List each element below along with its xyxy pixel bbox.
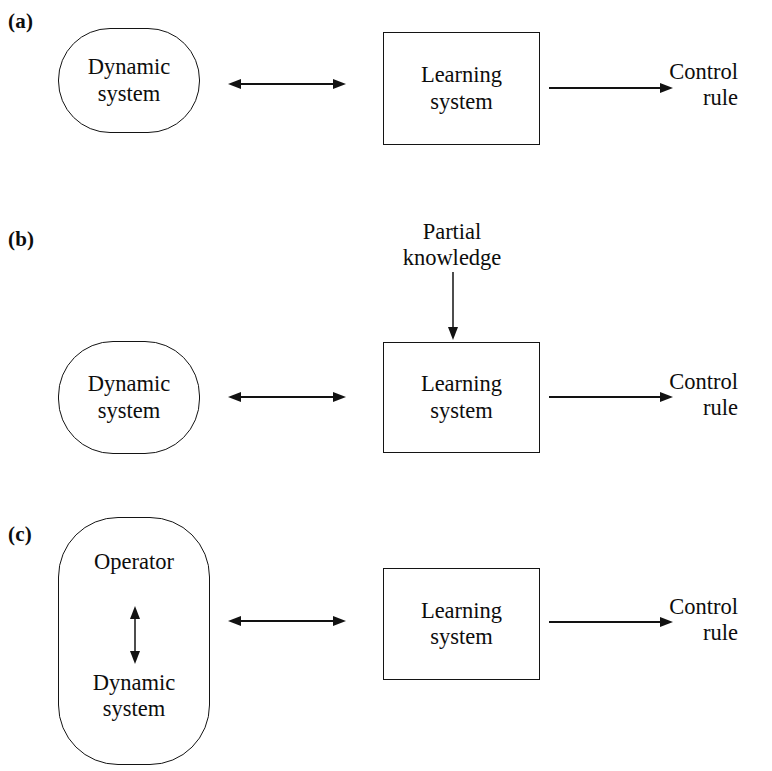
learning-system-label-c-line2: system [430, 624, 493, 650]
bidirectional-arrow-a [228, 73, 346, 95]
operator-plant-vertical-arrow-c [124, 606, 146, 664]
dynamic-system-label-c: Dynamic system [59, 670, 209, 722]
learning-system-node-a: Learning system [383, 32, 540, 145]
control-rule-label-b-line2: rule [598, 395, 738, 421]
dynamic-system-label-b-line2: system [98, 398, 161, 424]
panel-label-a: (a) [8, 11, 33, 32]
control-rule-label-c-line2: rule [598, 620, 738, 646]
bidirectional-arrow-b [228, 386, 346, 408]
dynamic-system-node-b: Dynamic system [58, 341, 200, 454]
dynamic-system-label-b-line1: Dynamic [88, 371, 170, 397]
figure-canvas: (a) Dynamic system Learning system Contr… [0, 0, 772, 771]
operator-label-c: Operator [59, 549, 209, 575]
control-rule-label-a-line2: rule [598, 85, 738, 111]
panel-label-c: (c) [8, 524, 32, 545]
partial-knowledge-label-b-line1: Partial [372, 219, 532, 245]
control-rule-output-a: Control rule [598, 59, 738, 111]
operator-label-c-line1: Operator [59, 549, 209, 575]
panel-label-b: (b) [8, 229, 34, 250]
control-rule-output-c: Control rule [598, 594, 738, 646]
dynamic-system-label-c-line2: system [59, 696, 209, 722]
control-rule-output-b: Control rule [598, 369, 738, 421]
control-rule-label-a-line1: Control [598, 59, 738, 85]
dynamic-system-label-a-line2: system [98, 81, 161, 107]
learning-system-label-a-line2: system [430, 89, 493, 115]
dynamic-system-label-c-line1: Dynamic [59, 670, 209, 696]
control-rule-label-b-line1: Control [598, 369, 738, 395]
dynamic-system-label-a-line1: Dynamic [88, 54, 170, 80]
partial-knowledge-input-b: Partial knowledge [372, 219, 532, 271]
learning-system-label-a-line1: Learning [421, 62, 502, 88]
learning-system-label-c-line1: Learning [421, 598, 502, 624]
operator-dynamic-system-node-c: Operator Dynamic system [58, 517, 210, 765]
dynamic-system-node-a: Dynamic system [58, 28, 200, 133]
learning-system-label-b-line1: Learning [421, 371, 502, 397]
learning-system-label-b-line2: system [430, 398, 493, 424]
partial-knowledge-label-b-line2: knowledge [372, 245, 532, 271]
control-rule-label-c-line1: Control [598, 594, 738, 620]
learning-system-node-c: Learning system [383, 568, 540, 680]
knowledge-down-arrow-b [442, 272, 464, 340]
bidirectional-arrow-c [228, 610, 346, 632]
learning-system-node-b: Learning system [383, 342, 540, 453]
